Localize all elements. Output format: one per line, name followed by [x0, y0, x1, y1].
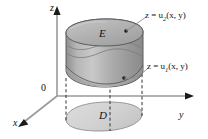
axis-z [53, 6, 60, 96]
annotation-lower-surface: z = u1(x, y) [147, 62, 188, 73]
axis-label-x: x [13, 118, 17, 128]
figure-container: z y x 0 E D z = u2(x, y) z = u1(x, y) [0, 0, 208, 139]
origin-label: 0 [41, 83, 46, 93]
annotation-upper-surface: z = u2(x, y) [145, 11, 186, 22]
axis-x [18, 96, 57, 127]
annotation-upper-prefix: z = u [145, 10, 163, 20]
annotation-upper-suffix: (x, y) [166, 10, 186, 20]
region-label-D: D [99, 110, 107, 121]
axis-label-y: y [179, 110, 183, 120]
axis-y [57, 92, 194, 99]
annotation-lower-prefix: z = u [147, 61, 165, 71]
annotation-lower-suffix: (x, y) [168, 61, 188, 71]
axis-label-z: z [50, 3, 54, 13]
region-label-E: E [99, 28, 106, 39]
